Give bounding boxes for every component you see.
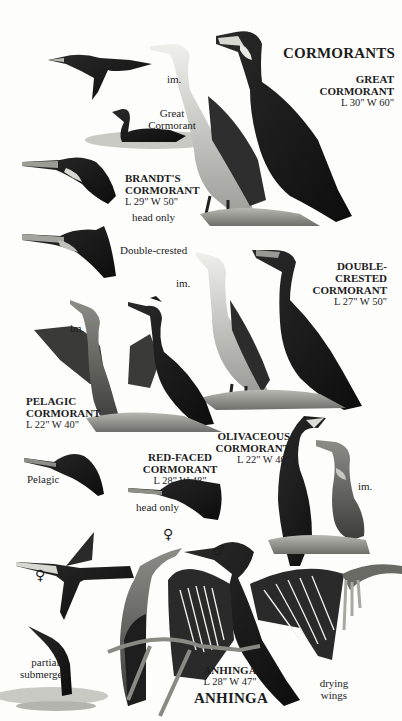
annotation-drying-wings: drying wings <box>314 677 354 701</box>
species-label-red-faced-cormorant: RED-FACED CORMORANT L 28" W 48" <box>110 451 250 487</box>
species-name: RED-FACED CORMORANT <box>110 451 250 475</box>
annotation-line: partially <box>12 656 68 668</box>
annotation-line: drying <box>314 677 354 689</box>
species-name: CORMORANT <box>312 284 387 296</box>
female-symbol-icon: ♀ <box>35 568 45 582</box>
species-label-brandts-cormorant: BRANDT'S CORMORANT L 29" W 50" head only <box>125 172 200 223</box>
section-title-cormorants: CORMORANTS <box>283 45 395 62</box>
species-name: GREAT <box>319 73 394 85</box>
brandts-cormorant-head-illustration <box>22 157 116 204</box>
annotation-great-swimming: Great Cormorant <box>141 107 203 131</box>
species-name: CORMORANT <box>125 184 200 196</box>
species-measurements: L 28" W 48" <box>110 475 250 487</box>
species-name: CORMORANT <box>319 85 394 97</box>
male-symbol-icon: ♂ <box>212 543 225 557</box>
species-measurements: L 22" W 40" <box>26 419 101 431</box>
annotation-line: submerged <box>12 668 68 680</box>
species-name: PELAGIC <box>26 395 101 407</box>
female-symbol-icon: ♀ <box>163 527 173 541</box>
annotation-pelagic-head: Pelagic <box>27 473 59 485</box>
species-label-pelagic-cormorant: PELAGIC CORMORANT L 22" W 40" <box>26 395 101 431</box>
species-name: CRESTED <box>312 272 387 284</box>
annotation-partially-submerged: partially submerged <box>12 656 68 680</box>
double-crested-immature-illustration <box>196 252 270 400</box>
field-guide-plate: CORMORANTS GREAT CORMORANT L 30" W 60" i… <box>0 0 402 721</box>
annotation-double-crested-immature: im. <box>176 277 190 289</box>
species-measurements: L 29" W 50" <box>125 196 200 208</box>
annotation-double-crested-head: Double-crested <box>120 244 187 256</box>
annotation-head-only: head only <box>125 211 200 223</box>
annotation-line: Cormorant <box>141 119 203 131</box>
species-measurements: L 27" W 50" <box>312 296 387 308</box>
annotation-red-faced-head-only: head only <box>136 501 179 513</box>
double-crested-head-illustration <box>22 226 116 278</box>
species-name: BRANDT'S <box>125 172 200 184</box>
anhinga-female-flying-illustration <box>16 532 134 620</box>
species-name: OLIVACEOUS <box>215 430 290 442</box>
annotation-great-immature: im. <box>167 73 181 85</box>
annotation-pelagic-immature: im. <box>70 322 84 334</box>
species-name: DOUBLE- <box>312 260 387 272</box>
section-title-anhinga: ANHINGA <box>190 690 272 707</box>
species-measurements: L 30" W 60" <box>319 97 394 109</box>
annotation-line: Great <box>141 107 203 119</box>
species-label-double-crested-cormorant: DOUBLE- CRESTED CORMORANT L 27" W 50" <box>312 260 387 308</box>
great-cormorant-rock <box>200 208 320 226</box>
species-name: ANHINGA <box>200 664 260 676</box>
annotation-line: wings <box>314 689 354 701</box>
species-measurements: L 28" W 47" <box>200 676 260 688</box>
annotation-olivaceous-immature: im. <box>358 480 372 492</box>
species-label-anhinga: ANHINGA L 28" W 47" <box>200 664 260 688</box>
species-label-great-cormorant: GREAT CORMORANT L 30" W 60" <box>319 73 394 109</box>
great-cormorant-flying-illustration <box>48 55 152 100</box>
species-name: CORMORANT <box>26 407 101 419</box>
